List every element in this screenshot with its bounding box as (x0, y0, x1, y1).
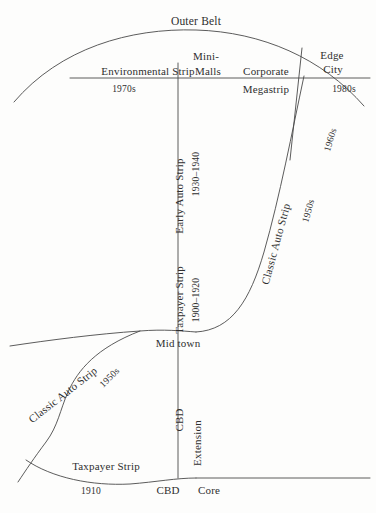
label-extension-vertical: Extension (192, 420, 203, 466)
label-taxpayer-strip-bottom-date: 1910 (81, 487, 101, 497)
label-cbd-bottom: CBD (156, 485, 179, 496)
label-core-bottom: Core (198, 485, 220, 496)
edge-city-divider (290, 48, 302, 160)
label-taxpayer-strip-mid: Taxpayer Strip (174, 266, 185, 334)
label-outer-belt: Outer Belt (171, 16, 221, 28)
label-mini: Mini- (193, 51, 219, 62)
label-megastrip: Megastrip (243, 84, 289, 95)
label-edge-city-date: 1980s (332, 85, 356, 95)
label-corporate: Corporate (243, 66, 289, 77)
label-early-auto-strip: Early Auto Strip (174, 158, 185, 233)
label-taxpayer-strip-mid-date: 1900–1920 (192, 278, 202, 323)
label-taxpayer-strip-bottom: Taxpayer Strip (72, 461, 140, 472)
diagram-canvas: Outer Belt Environmental Strip 1970s Min… (0, 0, 376, 513)
label-mid-town: Mid town (156, 338, 201, 349)
label-malls: Malls (195, 66, 221, 77)
label-city: City (323, 64, 343, 75)
label-early-auto-strip-date: 1930–1940 (192, 152, 202, 197)
label-edge: Edge (320, 50, 343, 61)
label-environmental-strip: Environmental Strip (101, 66, 194, 77)
label-environmental-strip-date: 1970s (112, 85, 136, 95)
label-cbd-vertical: CBD (174, 408, 185, 431)
